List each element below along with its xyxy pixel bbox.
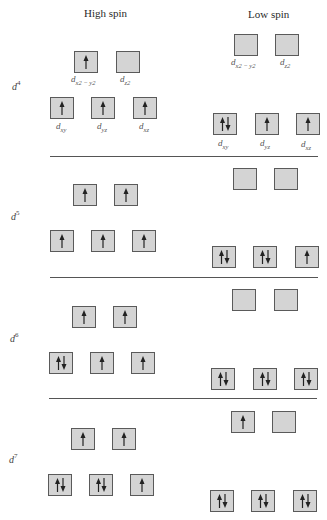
orbital-box-hs-d5-dxy (50, 230, 74, 252)
orb-sub: x2 − y2 (236, 62, 256, 69)
orbital-box-ls-d6-dyz (253, 368, 277, 390)
orbital-label-dxz: dxz (301, 139, 311, 151)
config-label-d5: d5 (11, 210, 20, 222)
spin-up-icon (236, 413, 250, 431)
spin-up-icon (118, 308, 132, 326)
orbital-box-ls-d6-dz2 (274, 289, 298, 311)
spin-up-icon (55, 232, 69, 250)
spin-up-icon (119, 186, 133, 204)
orbital-label-dx2y2: dx2 − y2 (71, 74, 95, 86)
orbital-box-hs-d5-dxz (132, 230, 156, 252)
orbital-box-hs-d5-dyz (91, 230, 115, 252)
orbital-label-dz2: dz2 (120, 74, 130, 86)
orbital-box-hs-d7-dxy (48, 474, 72, 496)
orbital-box-ls-d5-dxy (212, 246, 236, 268)
orb-sub: yz (102, 126, 107, 133)
orb-sub: z2 (125, 79, 131, 86)
spin-up-icon (135, 476, 149, 494)
spin-up-icon (79, 53, 93, 71)
orbital-label-dx2y2: dx2 − y2 (231, 57, 255, 69)
spin-pair-icon (215, 492, 229, 510)
orbital-box-ls-d5-dz2 (274, 168, 298, 190)
spin-up-icon (95, 354, 109, 372)
spin-up-icon (300, 248, 314, 266)
high-spin-title: High spin (84, 7, 127, 19)
orb-sub: xz (306, 144, 311, 151)
spin-up-icon (260, 115, 274, 133)
orbital-box-hs-d4-dxy (50, 97, 74, 119)
orbital-box-hs-d6-dz2 (113, 306, 137, 328)
spin-pair-icon (299, 370, 313, 388)
orbital-box-ls-d5-dyz (253, 246, 277, 268)
orbital-box-hs-d4-dyz (91, 97, 115, 119)
orbital-box-ls-d4-dz2 (275, 34, 299, 56)
spin-pair-icon (216, 370, 230, 388)
spin-pair-icon (258, 370, 272, 388)
section-divider (50, 156, 318, 157)
orbital-box-hs-d5-dz2 (114, 184, 138, 206)
orbital-box-hs-d7-dyz (89, 474, 113, 496)
orbital-label-dyz: dyz (97, 121, 107, 133)
orbital-box-ls-d7-dxz (293, 490, 317, 512)
config-exponent: 4 (17, 79, 21, 87)
spin-up-icon (117, 430, 131, 448)
orbital-box-hs-d7-dx2y2 (71, 428, 95, 450)
orbital-box-hs-d5-dx2y2 (73, 184, 97, 206)
low-spin-title: Low spin (248, 8, 289, 20)
orbital-box-ls-d4-dxy (213, 113, 237, 135)
orbital-box-ls-d7-dx2y2 (231, 411, 255, 433)
config-exponent: 6 (15, 331, 19, 339)
spin-up-icon (137, 232, 151, 250)
orbital-box-hs-d4-dxz (133, 97, 157, 119)
spin-up-icon (136, 354, 150, 372)
orbital-box-hs-d6-dxy (49, 352, 73, 374)
orbital-box-hs-d7-dz2 (112, 428, 136, 450)
spin-up-icon (77, 308, 91, 326)
config-exponent: 7 (14, 452, 18, 460)
config-exponent: 5 (16, 209, 20, 217)
orbital-label-dyz: dyz (260, 138, 270, 150)
orb-sub: xz (144, 126, 149, 133)
orbital-label-dxy: dxy (56, 121, 66, 133)
orbital-box-ls-d4-dx2y2 (234, 34, 258, 56)
orbital-box-ls-d5-dx2y2 (233, 168, 257, 190)
orb-sub: z2 (285, 62, 291, 69)
orbital-box-ls-d5-dxz (295, 246, 319, 268)
spin-pair-icon (256, 492, 270, 510)
orbital-label-dz2: dz2 (280, 57, 290, 69)
orbital-label-dxy: dxy (218, 138, 228, 150)
orb-sub: xy (61, 126, 67, 133)
orbital-box-hs-d4-dx2y2 (74, 51, 98, 73)
orb-sub: x2 − y2 (76, 79, 96, 86)
orb-sub: yz (265, 143, 270, 150)
orbital-box-ls-d4-dyz (255, 113, 279, 135)
spin-pair-icon (53, 476, 67, 494)
orbital-box-ls-d6-dx2y2 (232, 289, 256, 311)
spin-up-icon (76, 430, 90, 448)
section-divider (50, 277, 318, 278)
orbital-box-ls-d6-dxy (211, 368, 235, 390)
spin-pair-icon (54, 354, 68, 372)
section-divider (49, 398, 317, 399)
spin-up-icon (55, 99, 69, 117)
orbital-box-hs-d6-dx2y2 (72, 306, 96, 328)
orbital-box-hs-d6-dyz (90, 352, 114, 374)
orbital-box-ls-d6-dxz (294, 368, 318, 390)
spin-up-icon (138, 99, 152, 117)
spin-pair-icon (218, 115, 232, 133)
config-label-d6: d6 (10, 332, 19, 344)
spin-up-icon (96, 99, 110, 117)
config-label-d4: d4 (12, 80, 21, 92)
orbital-box-hs-d4-dz2 (116, 51, 140, 73)
spin-pair-icon (258, 248, 272, 266)
orbital-label-dxz: dxz (139, 121, 149, 133)
config-label-d7: d7 (9, 453, 18, 465)
orbital-box-ls-d7-dz2 (272, 411, 296, 433)
spin-pair-icon (94, 476, 108, 494)
orbital-box-ls-d4-dxz (296, 113, 320, 135)
spin-up-icon (301, 115, 315, 133)
orbital-box-ls-d7-dxy (210, 490, 234, 512)
orbital-box-hs-d7-dxz (130, 474, 154, 496)
orb-sub: xy (223, 143, 229, 150)
spin-pair-icon (298, 492, 312, 510)
